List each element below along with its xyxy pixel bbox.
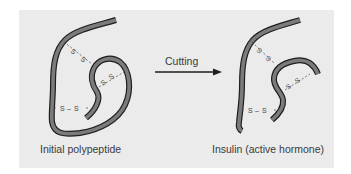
right-caption: Insulin (active hormone)	[212, 143, 324, 155]
svg-text:S: S	[264, 54, 272, 63]
svg-text:–: –	[255, 107, 259, 114]
svg-text:S: S	[107, 72, 115, 81]
svg-text:S: S	[248, 107, 253, 114]
svg-text:S: S	[60, 105, 65, 112]
svg-text:S: S	[69, 47, 77, 56]
insulin-a-chain	[239, 20, 300, 131]
svg-text:S: S	[255, 46, 263, 55]
insulin-b-chain	[272, 60, 318, 120]
initial-polypeptide-chain	[52, 20, 129, 134]
cutting-arrow	[155, 69, 222, 76]
svg-text:S: S	[293, 76, 301, 85]
svg-text:S: S	[74, 105, 79, 112]
arrow-label: Cutting	[165, 55, 198, 67]
left-caption: Initial polypeptide	[40, 143, 121, 155]
svg-text:–: –	[67, 105, 71, 112]
svg-text:S: S	[262, 107, 267, 114]
